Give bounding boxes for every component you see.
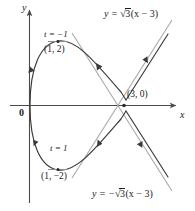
asymptote-lower-prefix: y = −	[92, 188, 115, 199]
param-label-lower: t = 1	[50, 144, 68, 153]
sqrt-icon-lower: √3	[115, 188, 126, 199]
param-label-upper: t = −1	[44, 30, 68, 39]
sqrt-icon-upper: √3	[120, 8, 131, 19]
radical-bar-lower: 3	[119, 188, 125, 199]
x-axis-label: x	[180, 110, 184, 120]
point-label-lower: (1, −2)	[41, 172, 67, 182]
radical-bar-upper: 3	[125, 8, 131, 19]
asymptote-lower-equation: y = −√3(x − 3)	[92, 188, 153, 199]
point-label-upper: (1, 2)	[44, 45, 65, 55]
parametric-curve-figure: y x 0 t = −1 (1, 2) t = 1 (1, −2) (3, 0)…	[0, 0, 195, 211]
direction-arrow-group	[27, 55, 150, 149]
origin-label: 0	[19, 108, 24, 118]
plot-canvas	[0, 0, 195, 211]
crossing-point-label: (3, 0)	[127, 90, 148, 100]
asymptote-upper-prefix: y =	[104, 8, 120, 19]
asymptote-upper-suffix: (x − 3)	[131, 8, 158, 19]
y-axis-label: y	[22, 3, 26, 13]
curve-branch-lower-right	[126, 111, 168, 177]
axis-group	[10, 10, 176, 203]
asymptote-lower-line	[72, 33, 172, 191]
direction-arrow-branch-lower	[137, 141, 146, 149]
asymptote-upper-equation: y = √3(x − 3)	[104, 8, 158, 19]
asymptote-upper-line	[72, 20, 172, 178]
asymptote-lower-suffix: (x − 3)	[125, 188, 152, 199]
point-dot-crossing	[122, 104, 126, 108]
point-dot-upper	[57, 40, 60, 43]
